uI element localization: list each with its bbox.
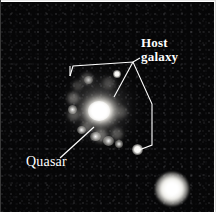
frame-edge-right (215, 0, 216, 212)
host-galaxy-label-line1: Host (141, 36, 178, 50)
quasar-label: Quasar (26, 155, 67, 169)
host-galaxy-label: Host galaxy (141, 36, 178, 64)
host-galaxy-pointer-to-core (114, 62, 133, 97)
figure-root: Host galaxy Quasar (0, 0, 216, 220)
host-galaxy-leader-line (133, 58, 140, 62)
host-galaxy-boundary-polyline (70, 62, 152, 150)
annotation-overlay (0, 0, 214, 210)
frame-edge-top (0, 0, 216, 1)
frame-edge-bottom (0, 212, 216, 220)
host-galaxy-label-line2: galaxy (141, 50, 178, 64)
frame-edge-left (0, 0, 1, 212)
